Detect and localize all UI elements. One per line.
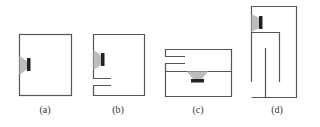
speaker-cone-icon — [187, 72, 208, 80]
panel-d-enclosure — [252, 7, 297, 98]
panel-b-enclosure — [94, 35, 145, 96]
panel-d-label: (d) — [271, 104, 283, 115]
speaker-cone-icon — [252, 14, 260, 32]
speaker-cone-icon — [94, 50, 102, 70]
speaker-magnet-icon — [101, 53, 105, 66]
panel-a-enclosure — [20, 35, 72, 96]
panel-b-label: (b) — [112, 104, 124, 115]
panel-c-label: (c) — [192, 104, 203, 115]
speaker-magnet-icon — [27, 58, 31, 71]
panel-a-label: (a) — [39, 104, 50, 115]
speaker-magnet-icon — [191, 79, 204, 83]
panel-c-enclosure — [166, 50, 232, 97]
speaker-magnet-icon — [259, 16, 263, 29]
speaker-cone-icon — [20, 56, 28, 75]
